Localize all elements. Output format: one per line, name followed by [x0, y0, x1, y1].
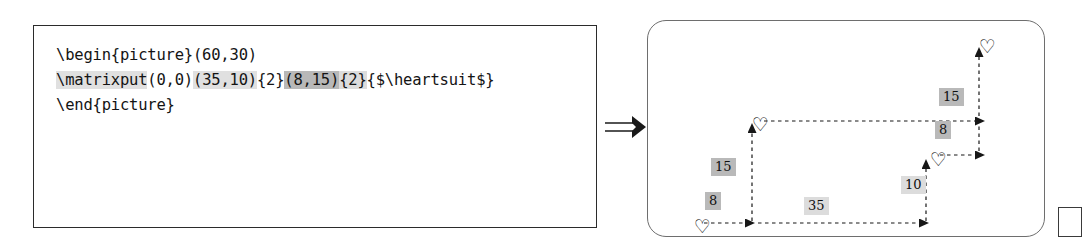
- offset-value-label: 35: [804, 197, 829, 215]
- code-segment: {2}: [257, 71, 284, 89]
- offset-arrow-layer: [704, 57, 979, 223]
- offset-value-label: 8: [705, 192, 721, 210]
- heart-glyph: ♡: [930, 148, 947, 170]
- code-line: \matrixput(0,0)(35,10){2}(8,15){2}{$\hea…: [56, 68, 494, 93]
- latex-code-block: \begin{picture}(60,30)\matrixput(0,0)(35…: [56, 43, 494, 118]
- code-line: \begin{picture}(60,30): [56, 43, 494, 68]
- implies-arrow: [604, 112, 648, 142]
- code-segment: \begin{picture}(60,30): [56, 46, 257, 64]
- code-segment: {$\heartsuit$}: [367, 71, 495, 89]
- offset-value-label: 15: [711, 158, 736, 176]
- page-edge-stub-box: [1058, 207, 1082, 237]
- code-segment: \matrixput: [56, 71, 147, 89]
- heart-glyph: ♡: [752, 113, 769, 135]
- heart-glyph: ♡: [694, 215, 711, 237]
- heart-glyph: ♡: [979, 35, 996, 57]
- code-segment: \end{picture}: [56, 96, 175, 114]
- latex-code-panel: \begin{picture}(60,30)\matrixput(0,0)(35…: [33, 25, 597, 228]
- offset-value-label: 10: [901, 176, 926, 194]
- code-segment: (35,10): [193, 71, 257, 89]
- code-segment: (8,15): [284, 71, 339, 89]
- code-segment: (0,0): [147, 71, 193, 89]
- code-line: \end{picture}: [56, 93, 494, 118]
- code-segment: {2}: [339, 71, 366, 89]
- offset-value-label: 8: [935, 121, 951, 139]
- offset-value-label: 15: [939, 88, 964, 106]
- result-diagram-panel: ♡♡♡♡ 8153510815: [647, 20, 1045, 237]
